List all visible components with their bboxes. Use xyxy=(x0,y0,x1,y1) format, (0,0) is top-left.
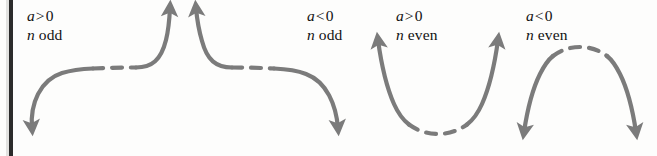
curve-segment-solid-right xyxy=(136,8,170,68)
degree-condition: n odd xyxy=(27,25,62,44)
coefficient-value: 0 xyxy=(415,7,423,24)
coefficient-value: 0 xyxy=(326,7,334,24)
coefficient-relation: > xyxy=(35,7,46,24)
label-a-positive-n-even: a>0 n even xyxy=(396,6,438,44)
coefficient-variable: a xyxy=(307,7,315,24)
curve-segment-dashed-top xyxy=(553,47,607,56)
degree-parity: odd xyxy=(319,26,343,43)
coefficient-variable: a xyxy=(396,7,404,24)
degree-parity: even xyxy=(408,26,438,43)
coefficient-relation: > xyxy=(404,7,415,24)
label-a-positive-n-odd: a>0 n odd xyxy=(27,6,62,44)
coefficient-variable: a xyxy=(526,7,534,24)
degree-variable: n xyxy=(526,26,534,43)
coefficient-value: 0 xyxy=(46,7,54,24)
curve-segment-dashed-middle xyxy=(93,68,136,69)
degree-parity: odd xyxy=(39,26,63,43)
curve-segment-solid-left xyxy=(378,40,409,125)
degree-variable: n xyxy=(307,26,315,43)
degree-parity: even xyxy=(538,26,568,43)
label-a-negative-n-even: a<0 n even xyxy=(526,6,568,44)
coefficient-value: 0 xyxy=(545,7,553,24)
coefficient-condition: a<0 xyxy=(526,6,568,25)
coefficient-relation: < xyxy=(315,7,326,24)
curve-segment-solid-right xyxy=(274,69,338,129)
figure-canvas: a>0 n odd a<0 n odd a>0 n even a<0 n eve… xyxy=(0,0,657,156)
curve-segment-solid-right xyxy=(607,56,636,132)
curve-segment-solid-left xyxy=(32,69,93,129)
coefficient-relation: < xyxy=(534,7,545,24)
curve-segment-dashed-bottom xyxy=(409,125,467,135)
degree-variable: n xyxy=(396,26,404,43)
curve-segment-solid-left xyxy=(196,8,232,68)
curve-a-negative-n-even xyxy=(524,47,636,132)
coefficient-condition: a>0 xyxy=(27,6,62,25)
coefficient-condition: a>0 xyxy=(396,6,438,25)
curve-segment-solid-left xyxy=(524,56,553,132)
degree-condition: n even xyxy=(526,25,568,44)
curve-segment-solid-right xyxy=(467,40,498,125)
degree-condition: n odd xyxy=(307,25,342,44)
curve-segment-dashed-middle xyxy=(232,68,274,69)
coefficient-variable: a xyxy=(27,7,35,24)
label-a-negative-n-odd: a<0 n odd xyxy=(307,6,342,44)
degree-condition: n even xyxy=(396,25,438,44)
curve-a-positive-n-even xyxy=(378,40,498,134)
degree-variable: n xyxy=(27,26,35,43)
coefficient-condition: a<0 xyxy=(307,6,342,25)
